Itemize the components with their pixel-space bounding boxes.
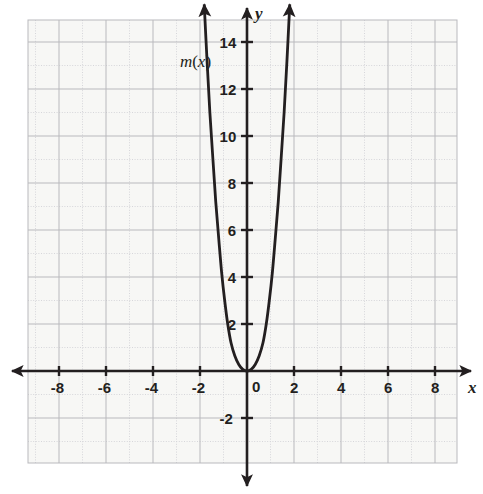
x-tick-label--4: -4 [145,380,158,395]
x-tick-label-8: 8 [431,380,439,395]
x-tick-label-6: 6 [384,380,392,395]
x-tick-label--2: -2 [192,380,205,395]
graph-paper-background [28,20,457,463]
graph-figure: -8-6-4-202468-22468101214 x y m(x) [0,0,483,494]
x-tick-label--8: -8 [51,380,64,395]
y-tick-label-2: 2 [228,317,236,332]
x-tick-label-2: 2 [290,380,298,395]
y-tick-label-8: 8 [228,176,236,191]
y-tick-label-6: 6 [228,223,236,238]
function-label: m(x) [180,53,211,70]
y-tick-label-12: 12 [220,82,237,97]
y-tick-label-10: 10 [220,129,237,144]
x-tick-label-4: 4 [337,380,345,395]
y-axis-label: y [255,5,263,22]
x-tick-label-0: 0 [252,379,260,394]
y-tick-label-4: 4 [228,270,236,285]
y-tick-label-14: 14 [220,35,237,50]
x-tick-label--6: -6 [98,380,111,395]
coordinate-plane [0,0,483,494]
x-axis-label: x [468,379,477,396]
y-tick-label--2: -2 [220,411,233,426]
